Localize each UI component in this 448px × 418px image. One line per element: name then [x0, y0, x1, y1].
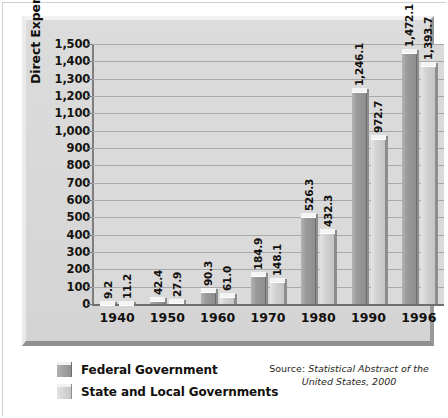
y-axis-tick-label: 1,300 — [30, 72, 90, 86]
bar-federal: 1,246.1 — [352, 88, 367, 304]
bar-side-edge — [367, 89, 369, 304]
bar-side-edge — [386, 136, 388, 304]
bar-side-edge — [285, 279, 287, 304]
bar-state: 27.9 — [169, 299, 184, 304]
bar-state: 61.0 — [220, 293, 235, 304]
legend-label: State and Local Governments — [81, 385, 278, 399]
y-axis-tick-label: 300 — [30, 245, 90, 259]
bar-group: 9.211.2 — [92, 44, 142, 304]
bar-top-cap — [119, 301, 134, 306]
x-axis-label: 1950 — [142, 310, 192, 325]
y-axis-tick-label: 600 — [30, 193, 90, 207]
bar-value-label: 27.9 — [170, 266, 183, 297]
bar-value-label: 1,246.1 — [353, 37, 366, 86]
y-axis-tick-label: 900 — [30, 141, 90, 155]
bar-group: 90.361.0 — [193, 44, 243, 304]
x-axis-label: 1960 — [193, 310, 243, 325]
bar-state: 11.2 — [119, 301, 134, 304]
chart-figure: Direct Expenditures (in billions of doll… — [0, 0, 448, 418]
legend-swatch-federal — [57, 362, 72, 377]
bar-top-cap — [169, 299, 184, 304]
bar-side-edge — [184, 300, 186, 304]
source-prefix: Source: — [269, 363, 305, 374]
bar-value-label: 972.7 — [372, 96, 385, 133]
bar-value-label: 148.1 — [271, 239, 284, 276]
y-axis-tick-label: 0 — [30, 297, 90, 311]
y-axis-tick-label: 1,100 — [30, 106, 90, 120]
y-axis-tick-label: 100 — [30, 280, 90, 294]
bar-value-label: 184.9 — [252, 233, 265, 270]
plot-area: 01002003004005006007008009001,0001,1001,… — [92, 44, 444, 328]
bar-body — [270, 281, 285, 304]
y-axis-tick-mark — [87, 304, 92, 305]
bar-state: 432.3 — [320, 229, 335, 304]
bar-top-cap — [320, 229, 335, 234]
bar-state: 972.7 — [371, 135, 386, 304]
bar-series-container: 9.211.242.427.990.361.0184.9148.1526.343… — [92, 44, 444, 304]
y-axis-tick-label: 200 — [30, 262, 90, 276]
bar-side-edge — [134, 302, 136, 304]
x-axis-label: 1940 — [92, 310, 142, 325]
bar-top-cap — [100, 301, 115, 306]
bar-body — [301, 216, 316, 304]
chart-plaque: Direct Expenditures (in billions of doll… — [22, 16, 434, 346]
source-note: Source: Statistical Abstract of the Unit… — [256, 362, 442, 388]
bar-federal: 90.3 — [201, 288, 216, 304]
bar-top-cap — [270, 278, 285, 283]
bar-top-cap — [251, 272, 266, 277]
bar-side-edge — [266, 273, 268, 304]
bar-value-label: 11.2 — [120, 268, 133, 299]
y-axis-tick-label: 800 — [30, 158, 90, 172]
y-axis-tick-label: 1,000 — [30, 124, 90, 138]
bar-federal: 526.3 — [301, 213, 316, 304]
bar-side-edge — [235, 294, 237, 304]
bar-top-cap — [352, 88, 367, 93]
bar-side-edge — [216, 289, 218, 304]
bar-value-label: 9.2 — [101, 274, 114, 299]
y-axis-tick-label: 400 — [30, 228, 90, 242]
bar-federal: 1,472.1 — [402, 49, 417, 304]
y-axis-tick-label: 1,400 — [30, 54, 90, 68]
bar-body — [421, 65, 436, 304]
bar-federal: 42.4 — [150, 297, 165, 304]
bar-value-label: 61.0 — [221, 261, 234, 292]
bar-top-cap — [371, 135, 386, 140]
bar-body — [402, 52, 417, 304]
y-axis-tick-label: 500 — [30, 210, 90, 224]
bar-side-edge — [316, 214, 318, 304]
legend-label: Federal Government — [81, 363, 218, 377]
chart-legend: Federal GovernmentState and Local Govern… — [57, 362, 278, 406]
bar-value-label: 90.3 — [202, 256, 215, 287]
x-axis-label: 1970 — [243, 310, 293, 325]
bar-body — [371, 138, 386, 304]
bar-state: 148.1 — [270, 278, 285, 304]
bar-top-cap — [421, 62, 436, 67]
bar-side-edge — [115, 302, 117, 304]
legend-item-state: State and Local Governments — [57, 384, 278, 399]
bar-body — [320, 232, 335, 304]
x-axis-label: 1990 — [343, 310, 393, 325]
x-axis-label: 1996 — [394, 310, 444, 325]
bar-federal: 9.2 — [100, 301, 115, 304]
bar-body — [352, 91, 367, 304]
bar-side-edge — [165, 298, 167, 304]
source-citation: Statistical Abstract of the United State… — [302, 363, 429, 387]
x-axis-label: 1980 — [293, 310, 343, 325]
bar-top-cap — [220, 293, 235, 298]
bar-value-label: 1,393.7 — [422, 11, 435, 60]
bar-value-label: 42.4 — [151, 264, 164, 295]
legend-swatch-state — [57, 384, 72, 399]
bar-top-cap — [201, 288, 216, 293]
bar-group: 1,246.1972.7 — [343, 44, 393, 304]
bar-body — [251, 275, 266, 304]
bar-group: 1,472.11,393.7 — [394, 44, 444, 304]
bar-value-label: 432.3 — [321, 190, 334, 227]
y-axis-tick-label: 1,500 — [30, 37, 90, 51]
legend-item-federal: Federal Government — [57, 362, 278, 377]
y-axis-tick-label: 1,200 — [30, 89, 90, 103]
bar-group: 526.3432.3 — [293, 44, 343, 304]
bar-side-edge — [335, 230, 337, 304]
legend-swatch-cap — [57, 362, 71, 365]
bar-value-label: 1,472.1 — [403, 0, 416, 47]
bar-side-edge — [436, 63, 438, 304]
